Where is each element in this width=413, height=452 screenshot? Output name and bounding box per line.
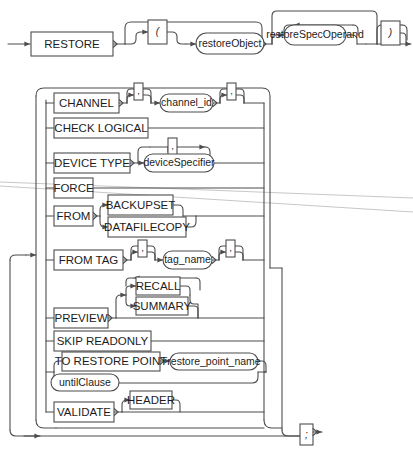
label-until-clause: untilClause [59, 376, 111, 388]
label-channel: CHANNEL [59, 97, 115, 109]
label-force: FORCE [53, 182, 94, 194]
label-recall: RECALL [136, 280, 181, 292]
label-device-type: DEVICE TYPE [54, 157, 130, 169]
label-comma-channel-leading: , [137, 85, 140, 96]
label-restore-point-name: restore_point_name [167, 355, 261, 367]
label-from-tag: FROM TAG [59, 254, 119, 266]
label-check-logical: CHECK LOGICAL [54, 122, 148, 134]
label-tag-name: tag_name [164, 253, 211, 265]
label-summary: SUMMARY [133, 300, 192, 312]
label-comma-from-tag-leading: , [141, 242, 144, 253]
label-comma-from-tag-trailing: , [229, 242, 232, 253]
label-channel-id: channel_id [161, 96, 212, 108]
label-restore-spec-operand: restoreSpecOperand [266, 28, 364, 40]
label-preview: PREVIEW [54, 312, 107, 324]
label-datafilecopy: DATAFILECOPY [104, 221, 190, 233]
label-device-specifier: deviceSpecifier [143, 156, 215, 168]
label-restore: RESTORE [44, 38, 100, 50]
label-from: FROM [57, 210, 91, 222]
label-backupset: BACKUPSET [106, 199, 176, 211]
railroad-diagram: RESTORE ( restoreObject restoreSpecOpera… [0, 0, 413, 452]
label-validate: VALIDATE [57, 406, 111, 418]
label-skip-readonly: SKIP READONLY [57, 335, 149, 347]
label-close-paren: ) [388, 27, 392, 38]
label-restore-object: restoreObject [198, 37, 261, 49]
railroad-canvas: RESTORE ( restoreObject restoreSpecOpera… [0, 0, 413, 452]
label-to-restore-point: TO RESTORE POINT [55, 355, 168, 367]
label-comma-device-type: , [171, 140, 174, 151]
label-terminator: ; [305, 429, 308, 440]
label-header: HEADER [127, 394, 175, 406]
label-comma-channel-trailing: , [230, 85, 233, 96]
